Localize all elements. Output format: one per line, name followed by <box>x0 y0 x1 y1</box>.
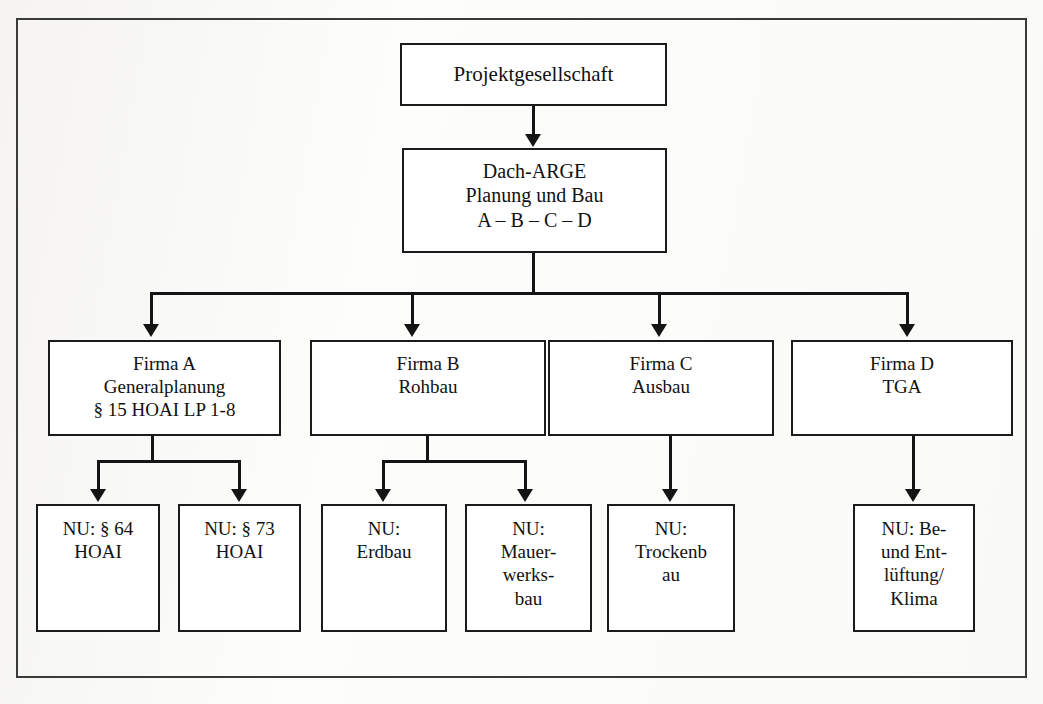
connector-firma-c-to-nu-tro <box>669 436 672 490</box>
arrowhead-dacharge <box>525 134 541 147</box>
arrowhead-nu-mauerwerksbau <box>517 489 533 502</box>
connector-bus-to-firma-c <box>658 292 661 325</box>
node-line: A – B – C – D <box>477 208 591 232</box>
node-line: werks- <box>503 563 555 586</box>
node-line: NU: § 73 <box>204 517 275 540</box>
arrowhead-nu-lueftung <box>905 489 921 502</box>
connector-firma-a-bus <box>97 460 241 463</box>
node-line: Projektgesellschaft <box>454 62 614 88</box>
connector-firma-d-to-nu-lue <box>912 436 915 490</box>
arrowhead-nu-hoai-73 <box>231 489 247 502</box>
node-firma-b[interactable]: Firma B Rohbau <box>310 340 546 436</box>
arrowhead-nu-trockenbau <box>662 489 678 502</box>
node-line: bau <box>515 587 542 610</box>
arrowhead-nu-erdbau <box>375 489 391 502</box>
node-line: Erdbau <box>357 540 412 563</box>
connector-bus-to-firma-b <box>411 292 414 325</box>
node-line: NU: <box>512 517 545 540</box>
node-projektgesellschaft[interactable]: Projektgesellschaft <box>400 43 667 106</box>
node-line: NU: <box>655 517 688 540</box>
node-line: HOAI <box>74 540 122 563</box>
arrowhead-firma-d <box>899 324 915 337</box>
connector-dacharge-stem <box>532 253 535 294</box>
node-line: Firma D <box>870 352 934 375</box>
connector-firma-b-stem <box>426 436 429 462</box>
node-line: HOAI <box>216 540 264 563</box>
node-line: § 15 HOAI LP 1-8 <box>94 398 236 421</box>
node-line: lüftung/ <box>884 563 944 586</box>
node-firma-c[interactable]: Firma C Ausbau <box>548 340 774 436</box>
node-firma-a[interactable]: Firma A Generalplanung § 15 HOAI LP 1-8 <box>48 340 281 436</box>
connector-firma-b-to-nu-erd <box>382 460 385 490</box>
connector-firma-a-to-nu-64 <box>97 460 100 490</box>
connector-firma-a-stem <box>151 436 154 462</box>
connector-bus-to-firma-d <box>906 292 909 325</box>
node-nu-lueftung-klima[interactable]: NU: Be- und Ent- lüftung/ Klima <box>853 504 975 632</box>
arrowhead-firma-b <box>404 324 420 337</box>
connector-bus-firmen <box>150 292 909 295</box>
node-line: NU: Be- <box>882 517 947 540</box>
node-line: Firma A <box>133 352 196 375</box>
node-nu-hoai-73[interactable]: NU: § 73 HOAI <box>178 504 301 632</box>
node-line: NU: § 64 <box>63 517 134 540</box>
connector-firma-a-to-nu-73 <box>238 460 241 490</box>
node-line: Firma C <box>630 352 693 375</box>
node-nu-hoai-64[interactable]: NU: § 64 HOAI <box>36 504 160 632</box>
node-line: Generalplanung <box>104 375 225 398</box>
node-line: und Ent- <box>881 540 947 563</box>
node-line: Dach-ARGE <box>483 159 586 183</box>
node-nu-erdbau[interactable]: NU: Erdbau <box>321 504 447 632</box>
node-line: TGA <box>882 375 921 398</box>
node-line: Klima <box>890 587 938 610</box>
node-line: au <box>662 563 680 586</box>
node-firma-d[interactable]: Firma D TGA <box>791 340 1013 436</box>
connector-root-to-dacharge <box>532 106 535 136</box>
node-line: Planung und Bau <box>466 183 604 207</box>
node-line: Ausbau <box>632 375 690 398</box>
node-nu-trockenbau[interactable]: NU: Trockenb au <box>607 504 735 632</box>
node-nu-mauerwerksbau[interactable]: NU: Mauer- werks- bau <box>465 504 592 632</box>
node-line: NU: <box>368 517 401 540</box>
node-line: Mauer- <box>501 540 557 563</box>
arrowhead-nu-hoai-64 <box>90 489 106 502</box>
node-dach-arge[interactable]: Dach-ARGE Planung und Bau A – B – C – D <box>402 148 667 253</box>
arrowhead-firma-a <box>143 324 159 337</box>
node-line: Trockenb <box>635 540 707 563</box>
diagram-page: Projektgesellschaft Dach-ARGE Planung un… <box>0 0 1043 704</box>
node-line: Firma B <box>397 352 460 375</box>
connector-bus-to-firma-a <box>150 292 153 325</box>
node-line: Rohbau <box>398 375 457 398</box>
arrowhead-firma-c <box>651 324 667 337</box>
connector-firma-b-to-nu-mau <box>524 460 527 490</box>
connector-firma-b-bus <box>382 460 527 463</box>
